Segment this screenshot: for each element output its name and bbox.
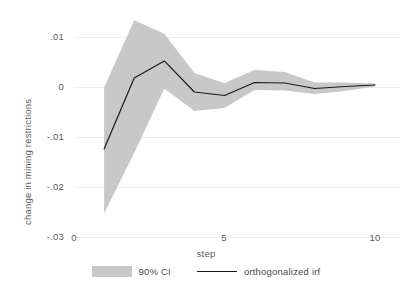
chart-legend: 90% CI orthogonalized irf [0, 266, 412, 277]
legend-label-ci: 90% CI [139, 266, 171, 277]
legend-label-irf: orthogonalized irf [244, 266, 320, 277]
xtick-label-0: 0 [59, 232, 89, 243]
ytick-label-3: -.02 [30, 181, 64, 192]
legend-entry-ci[interactable]: 90% CI [92, 266, 171, 277]
ytick-label-1: 0 [30, 81, 64, 92]
line-swatch-icon [197, 266, 237, 277]
y-axis-title: change in mining restrictions [22, 99, 33, 225]
xtick-label-1: 5 [209, 232, 239, 243]
ci-band-90 [104, 20, 375, 213]
xtick-label-2: 10 [360, 232, 390, 243]
legend-entry-irf[interactable]: orthogonalized irf [197, 266, 320, 277]
x-axis-title: step [0, 248, 412, 259]
ytick-label-2: -.01 [30, 131, 64, 142]
irf-chart-figure: .01 0 -.01 -.02 -.03 0 5 10 change in mi… [0, 0, 412, 295]
plot-area: .01 0 -.01 -.02 -.03 0 5 10 change in mi… [0, 0, 412, 295]
ytick-label-0: .01 [30, 31, 64, 42]
band-swatch-icon [92, 266, 132, 277]
